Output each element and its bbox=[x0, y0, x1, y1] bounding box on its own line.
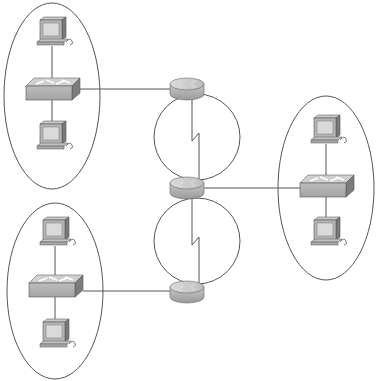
switch-icon[interactable] bbox=[29, 275, 83, 297]
pc-icon[interactable] bbox=[311, 217, 347, 245]
diagram-canvas bbox=[0, 0, 379, 381]
network-diagram bbox=[0, 0, 379, 381]
wan-cloud-bottom bbox=[154, 198, 240, 284]
pc-icon[interactable] bbox=[40, 217, 76, 245]
pc-icon[interactable] bbox=[37, 17, 73, 45]
pc-icon[interactable] bbox=[311, 115, 347, 143]
switch-icon[interactable] bbox=[26, 78, 80, 100]
pc-icon[interactable] bbox=[40, 319, 76, 347]
router-icon[interactable] bbox=[170, 177, 204, 199]
switch-icon[interactable] bbox=[300, 175, 354, 197]
router-icon[interactable] bbox=[170, 281, 204, 303]
serial-link-top bbox=[192, 94, 199, 180]
pc-icon[interactable] bbox=[37, 121, 73, 149]
router-icon[interactable] bbox=[170, 78, 204, 100]
wan-cloud-top bbox=[154, 94, 240, 180]
serial-link-bottom bbox=[192, 196, 199, 284]
